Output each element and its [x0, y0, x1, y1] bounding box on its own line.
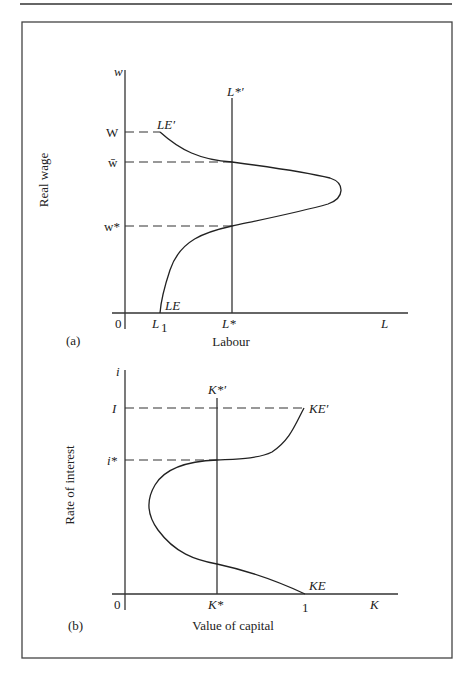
panel-b-tick-one: 1	[302, 600, 309, 615]
panel-a-tick-wstar: w*	[104, 219, 120, 234]
panel-a-tick-L1-sub: 1	[161, 320, 168, 335]
panel-a-y-symbol: w	[114, 64, 123, 79]
panel-a-x-title: Labour	[212, 334, 250, 349]
panel-b-x-symbol: K	[369, 597, 380, 612]
panel-a-tick-Lstar: L*	[221, 316, 236, 331]
panel-b-x-title: Value of capital	[192, 618, 274, 633]
panel-b-label: (b)	[68, 618, 83, 633]
panel-a-y-title: Real wage	[36, 153, 51, 208]
panel-a-le-curve	[160, 132, 341, 313]
panel-b-kstar-prime-label: K*′	[207, 382, 226, 397]
panel-a-tick-L1: L	[151, 316, 159, 331]
panel-b-ke-curve	[149, 408, 305, 594]
panel-b-y-title: Rate of interest	[62, 445, 77, 525]
panel-a-tick-wbar: w̄	[108, 155, 118, 170]
panel-a-lstar-prime-label: L*′	[226, 84, 244, 99]
panel-b-tick-istar: i*	[107, 453, 118, 468]
panel-b-ke-label: KE	[308, 578, 326, 593]
panel-b-y-symbol: i	[116, 364, 120, 379]
panel-a-tick-W: W	[106, 125, 119, 140]
panel-a-x-symbol: L	[380, 316, 388, 331]
figure-canvas: w L*′ LE′ W w̄ w* Real wage LE 0 L 1 L* …	[0, 0, 468, 679]
panel-a-origin: 0	[115, 316, 122, 331]
panel-b: i K*′ KE′ I i* Rate of interest KE 0 K* …	[62, 364, 398, 633]
panel-a: w L*′ LE′ W w̄ w* Real wage LE 0 L 1 L* …	[36, 64, 408, 349]
panel-a-le-prime-label: LE′	[156, 117, 175, 132]
panel-b-tick-I: I	[111, 401, 117, 416]
panel-a-label: (a)	[66, 333, 80, 348]
panel-b-ke-prime-label: KE′	[308, 401, 329, 416]
panel-b-tick-Kstar: K*	[207, 597, 224, 612]
panel-b-origin: 0	[114, 597, 121, 612]
panel-a-le-label: LE	[164, 298, 180, 313]
